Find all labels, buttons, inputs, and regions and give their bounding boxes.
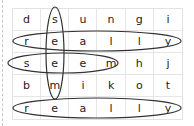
grid-cell[interactable]: s: [13, 53, 41, 75]
grid-cell[interactable]: d: [13, 9, 41, 31]
grid-cell[interactable]: o: [126, 75, 154, 97]
grid-cell[interactable]: l: [97, 97, 125, 119]
grid-cell[interactable]: h: [126, 53, 154, 75]
grid-cell[interactable]: l: [97, 31, 125, 53]
grid-cell[interactable]: m: [41, 75, 69, 97]
grid-cell[interactable]: i: [154, 9, 182, 31]
grid-cell[interactable]: l: [126, 31, 154, 53]
grid-cell[interactable]: e: [41, 31, 69, 53]
grid-cell[interactable]: m: [97, 53, 125, 75]
grid-cell[interactable]: y: [154, 97, 182, 119]
grid-cell[interactable]: e: [41, 53, 69, 75]
grid-cell[interactable]: y: [154, 31, 182, 53]
grid-cell[interactable]: u: [69, 9, 97, 31]
word-search-grid: d s u n g i r e a l l y s e e m h j b m …: [12, 8, 183, 120]
grid-cell[interactable]: i: [69, 75, 97, 97]
grid-cell[interactable]: j: [154, 53, 182, 75]
grid-cell[interactable]: l: [126, 97, 154, 119]
grid-cell[interactable]: r: [13, 31, 41, 53]
grid-cell[interactable]: n: [97, 9, 125, 31]
grid-cell[interactable]: s: [41, 9, 69, 31]
grid-cell[interactable]: e: [69, 53, 97, 75]
grid-cell[interactable]: e: [41, 97, 69, 119]
grid-cell[interactable]: g: [126, 9, 154, 31]
grid-cell[interactable]: k: [97, 75, 125, 97]
grid-cell[interactable]: r: [13, 97, 41, 119]
grid-cell[interactable]: b: [13, 75, 41, 97]
grid-cell[interactable]: t: [154, 75, 182, 97]
grid-cell[interactable]: a: [69, 31, 97, 53]
grid-cell[interactable]: a: [69, 97, 97, 119]
dashed-margin-line: [2, 0, 3, 126]
